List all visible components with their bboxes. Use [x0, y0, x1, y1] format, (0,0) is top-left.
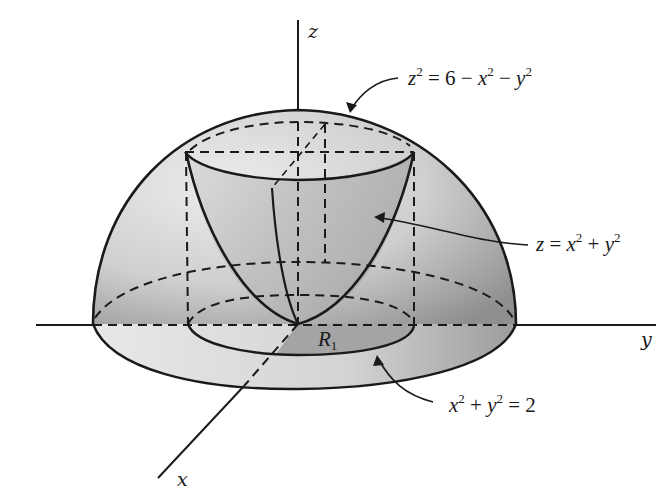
- sphere-equation: z2 = 6 − x2 − y2: [408, 68, 532, 89]
- sphere-eq-x-exp: 2: [487, 64, 494, 79]
- sphere-eq-z-exp: 2: [416, 64, 423, 79]
- circle-equation: x2 + y2 = 2: [449, 395, 536, 416]
- x-axis: [158, 386, 244, 478]
- sphere-eq-const: 6: [445, 66, 456, 90]
- sphere-eq-y-exp: 2: [525, 64, 532, 79]
- region-label-sub: 1: [331, 338, 338, 353]
- circle-eq-y-exp: 2: [497, 391, 504, 406]
- paraboloid-eq-z: z: [536, 232, 544, 256]
- paraboloid-eq-y: y: [605, 232, 614, 256]
- paraboloid-equation: z = x2 + y2: [536, 234, 621, 255]
- z-axis-label: z: [308, 22, 318, 41]
- region-label-r: R: [318, 327, 331, 351]
- sphere-eq-x: x: [478, 66, 487, 90]
- x-axis-label: x: [177, 470, 188, 489]
- sphere-leader-arrow: [352, 78, 398, 108]
- circle-eq-const: 2: [525, 393, 536, 417]
- y-axis-label: y: [641, 330, 652, 349]
- sphere-eq-z: z: [408, 66, 416, 90]
- paraboloid-eq-y-exp: 2: [614, 230, 621, 245]
- sphere-eq-y: y: [516, 66, 525, 90]
- paraboloid-eq-x: x: [567, 232, 576, 256]
- circle-eq-x-exp: 2: [458, 391, 465, 406]
- circle-eq-x: x: [449, 393, 458, 417]
- paraboloid-eq-x-exp: 2: [576, 230, 583, 245]
- region-r1-label: R1: [318, 329, 337, 350]
- circle-eq-y: y: [487, 393, 496, 417]
